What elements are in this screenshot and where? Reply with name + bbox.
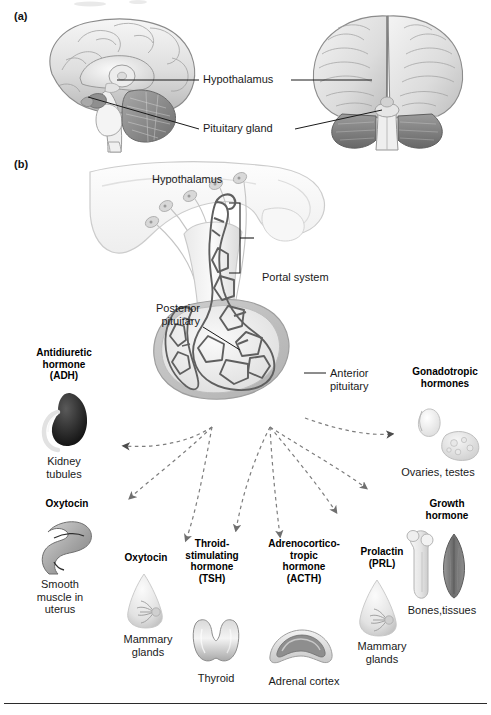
hormone-label-adh: Antidiuretic hormone (ADH) (14, 347, 114, 382)
target-label-bones-tissues: Bones,tissues (396, 604, 488, 617)
target-label-thyroid: Thyroid (182, 672, 250, 685)
ovary-testis-icon (412, 405, 484, 463)
adrenal-cortex-icon (266, 626, 336, 668)
figure-bottom-rule (4, 703, 487, 704)
hormone-label-oxytocin-mammary: Oxytocin (108, 552, 184, 564)
kidney-icon (36, 390, 92, 452)
mammary-gland-icon (120, 572, 176, 630)
target-label-ovaries-testes: Ovaries, testes (388, 466, 488, 479)
target-label-kidney-tubules: Kidney tubules (24, 455, 104, 480)
hormone-label-tsh: Throid- stimulating hormone (TSH) (174, 538, 250, 584)
target-label-adrenal-cortex: Adrenal cortex (255, 675, 353, 688)
figure-root: (a) (0, 0, 491, 715)
target-label-uterus: Smooth muscle in uterus (16, 578, 104, 616)
hormone-label-growth-hormone: Growth hormone (408, 498, 486, 521)
bone-muscle-icon (402, 528, 482, 600)
thyroid-icon (190, 617, 242, 665)
hormone-label-oxytocin-uterus: Oxytocin (30, 498, 104, 510)
target-label-mammary-prolactin: Mammary glands (340, 640, 424, 665)
target-label-mammary-oxytocin: Mammary glands (104, 633, 192, 658)
uterus-icon (36, 516, 98, 578)
hormone-label-gonadotropic: Gonadotropic hormones (402, 366, 488, 389)
hormone-label-acth: Adrenocortico- tropic hormone (ACTH) (255, 538, 353, 584)
